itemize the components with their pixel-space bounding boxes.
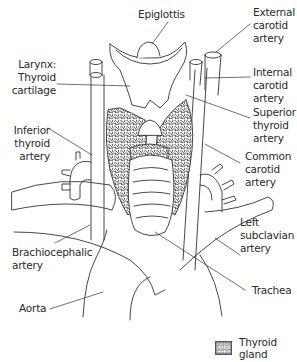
epiglottis: [137, 42, 160, 58]
leader-superior-thyroid: [186, 95, 250, 118]
leader-epiglottis: [152, 22, 168, 44]
label-aorta: Aorta: [19, 302, 46, 315]
label-common-carotid-artery: Common carotid artery: [245, 150, 291, 189]
label-external-carotid-artery: External carotid artery: [253, 6, 295, 45]
label-superior-thyroid-artery: Superior thyroid artery: [253, 106, 296, 145]
descending-line: [200, 255, 222, 316]
leader-left-subclavian: [215, 238, 240, 255]
label-larynx-thyroid-cartilage: Larynx: Thyroid cartilage: [6, 58, 56, 97]
right-external-carotid-top: [90, 73, 102, 78]
leader-brachiocephalic: [55, 225, 90, 243]
thyroid-anatomy-diagram: Epiglottis External carotid artery Laryn…: [0, 0, 297, 362]
label-left-subclavian-artery: Left subclavian artery: [240, 216, 294, 255]
label-brachiocephalic-artery: Brachiocephalic artery: [12, 246, 92, 272]
label-inferior-thyroid-artery: Inferior thyroid artery: [4, 124, 50, 163]
leader-larynx: [57, 84, 130, 86]
leader-inferior-thyroid: [48, 128, 92, 155]
leader-internal-carotid: [205, 77, 250, 78]
leader-external-carotid: [216, 24, 250, 52]
label-internal-carotid-artery: Internal carotid artery: [253, 66, 292, 105]
right-common-carotid: [91, 75, 104, 240]
left-internal-carotid-top: [190, 60, 202, 65]
left-external-carotid-top: [205, 52, 221, 58]
leader-common-carotid: [205, 144, 240, 163]
leader-aorta: [50, 292, 103, 309]
brachiocephalic-artery-shape: [12, 181, 116, 210]
leader-trachea: [155, 232, 245, 290]
label-epiglottis: Epiglottis: [138, 8, 185, 21]
legend-label-thyroid-gland: Thyroid gland: [239, 336, 297, 360]
thyroid-gland-swatch-icon: [215, 341, 232, 355]
aorta-right-line: [130, 277, 150, 320]
label-trachea: Trachea: [252, 284, 292, 297]
aorta-left-line: [83, 230, 107, 317]
legend: Thyroid gland: [215, 336, 297, 360]
